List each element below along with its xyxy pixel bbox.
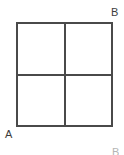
clipped-edge-label: B	[112, 147, 119, 155]
diagram-canvas: B A B	[0, 0, 124, 155]
horizontal-divider-line	[17, 74, 112, 76]
vertex-label-b: B	[111, 7, 118, 18]
vertex-label-a: A	[5, 129, 12, 140]
